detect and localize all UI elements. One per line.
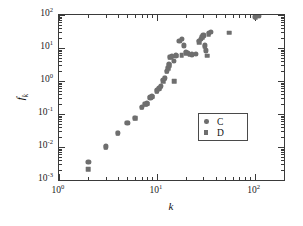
y-axis-title-subscript: k <box>21 94 30 97</box>
legend-marker-square-icon <box>204 130 216 134</box>
data-point-d <box>174 54 179 59</box>
data-point-d <box>206 32 211 37</box>
data-point-d <box>197 40 202 45</box>
data-point-d <box>188 53 193 58</box>
data-point-d <box>159 84 164 89</box>
x-axis-title: k <box>169 200 174 212</box>
data-point-d <box>167 63 172 68</box>
data-point-d <box>162 76 167 81</box>
data-point-d <box>172 79 177 84</box>
data-point-d <box>125 121 130 126</box>
data-point-c <box>86 159 91 164</box>
y-tick-label-3: 100 <box>40 75 53 85</box>
y-tick-label-0: 10-3 <box>38 174 53 184</box>
chart-figure: 10-310-210-1100101102100101102 fk k C D <box>0 0 303 226</box>
axis-tick <box>284 177 285 180</box>
data-point-c <box>179 36 184 41</box>
data-point-d <box>86 167 91 172</box>
data-point-d <box>145 101 150 106</box>
y-tick-label-4: 101 <box>40 42 53 52</box>
data-point-d <box>200 35 205 40</box>
x-tick-label-1: 101 <box>149 186 162 196</box>
scatter-data-layer <box>59 15 284 180</box>
legend-item-c: C <box>204 116 247 127</box>
data-point-d <box>150 95 155 100</box>
legend-label-c: C <box>217 117 223 127</box>
data-point-d <box>133 116 138 121</box>
data-point-d <box>103 145 108 150</box>
data-point-d <box>203 44 208 49</box>
data-point-d <box>227 30 232 35</box>
legend-item-d: D <box>204 127 247 138</box>
legend-box: C D <box>198 113 248 141</box>
data-point-d <box>254 15 259 19</box>
y-tick-label-1: 10-2 <box>38 141 53 151</box>
data-point-d <box>205 54 210 59</box>
y-tick-label-2: 10-1 <box>38 108 53 118</box>
data-point-d <box>169 54 174 59</box>
plot-frame <box>58 14 285 181</box>
x-tick-label-2: 102 <box>247 186 260 196</box>
y-axis-title-main: f <box>14 97 26 100</box>
data-point-c <box>193 51 198 56</box>
data-point-c <box>181 43 186 48</box>
y-axis-title: fk <box>14 94 29 100</box>
axis-tick <box>284 15 285 18</box>
y-tick-label-5: 102 <box>40 9 53 19</box>
legend-marker-circle-icon <box>204 119 216 124</box>
legend-label-d: D <box>217 128 224 138</box>
x-tick-label-0: 100 <box>52 186 65 196</box>
data-point-d <box>116 131 121 136</box>
axis-tick <box>278 180 284 181</box>
axis-tick <box>59 180 65 181</box>
